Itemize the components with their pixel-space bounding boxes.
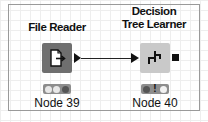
connection-line[interactable] xyxy=(81,58,133,59)
status-light-green-off xyxy=(160,86,167,93)
file-export-icon xyxy=(47,48,67,68)
node-title: Decision Tree Learner xyxy=(104,5,204,31)
status-light-yellow-off xyxy=(53,86,60,93)
status-light-red-off xyxy=(143,86,150,93)
status-traffic-light xyxy=(43,84,71,94)
node-label[interactable]: Node 40 xyxy=(118,96,192,110)
status-light-red-off xyxy=(45,86,52,93)
warning-icon: ! xyxy=(153,84,157,94)
status-light-green-off xyxy=(62,86,69,93)
workflow-canvas[interactable]: File Reader Node 39 Decision Tree Learne… xyxy=(0,0,208,122)
decision-tree-icon xyxy=(145,48,165,68)
node-title-line-2: Tree Learner xyxy=(104,18,204,31)
output-port[interactable] xyxy=(172,54,179,61)
output-port[interactable] xyxy=(74,53,81,63)
node-title: File Reader xyxy=(10,21,104,34)
connection-arrow-icon xyxy=(131,53,139,63)
node-icon-box[interactable] xyxy=(42,43,72,73)
node-label[interactable]: Node 39 xyxy=(20,96,94,110)
status-traffic-light: ! xyxy=(141,84,169,94)
node-icon-box[interactable] xyxy=(140,43,170,73)
node-title-line-1: Decision xyxy=(104,5,204,18)
